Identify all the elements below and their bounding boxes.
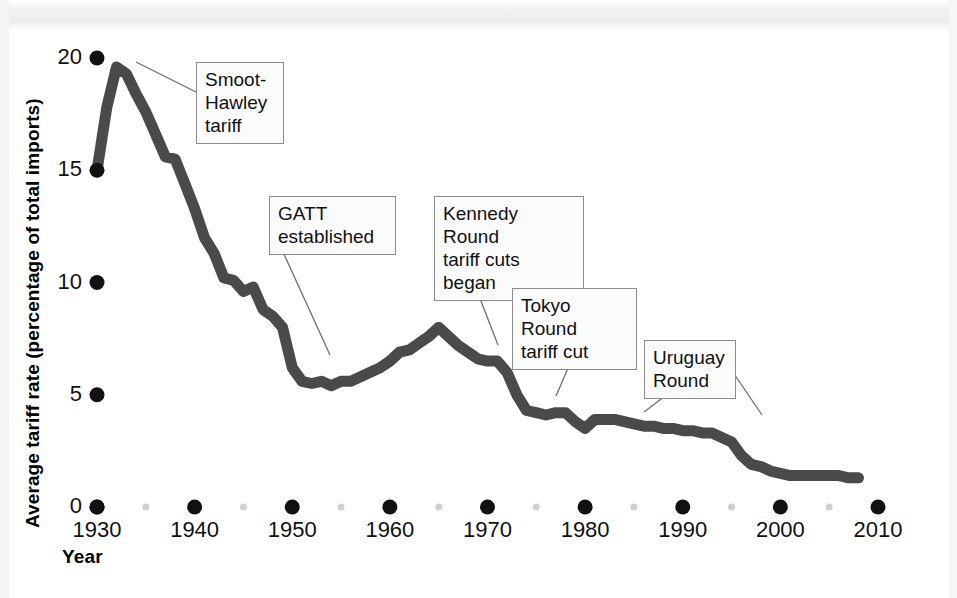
leader-line-smoot-hawley [136, 62, 196, 92]
x-tick-major-1960 [382, 500, 397, 515]
x-tick-minor-1985 [630, 504, 637, 511]
annotation-gatt: GATT established [269, 196, 396, 255]
x-tick-label-1950: 1950 [252, 518, 332, 542]
annotation-kennedy-round: Kennedy Round tariff cuts began [434, 196, 584, 301]
x-tick-major-1970 [480, 500, 495, 515]
y-tick-label-20: 20 [42, 46, 82, 68]
tariff-rate-figure: 05101520 1930194019501960197019801990200… [0, 0, 957, 598]
x-tick-label-1980: 1980 [545, 518, 625, 542]
x-tick-major-1980 [578, 500, 593, 515]
x-tick-major-2000 [773, 500, 788, 515]
x-tick-major-2010 [871, 500, 886, 515]
y-tick-major-10 [90, 275, 105, 290]
x-tick-label-1940: 1940 [155, 518, 235, 542]
annotation-tokyo-round: Tokyo Round tariff cut [512, 288, 637, 370]
annotation-smoot-hawley: Smoot- Hawley tariff [196, 62, 284, 144]
y-tick-label-10: 10 [42, 271, 82, 293]
x-tick-label-1930: 1930 [57, 518, 137, 542]
x-tick-minor-1975 [533, 504, 540, 511]
y-tick-major-5 [90, 387, 105, 402]
y-tick-label-0: 0 [42, 495, 82, 517]
x-tick-minor-1945 [240, 504, 247, 511]
x-tick-major-1990 [675, 500, 690, 515]
x-axis-title: Year [62, 546, 103, 568]
y-tick-label-5: 5 [42, 383, 82, 405]
x-tick-minor-2005 [826, 504, 833, 511]
x-tick-label-2000: 2000 [740, 518, 820, 542]
x-tick-minor-1965 [435, 504, 442, 511]
x-tick-minor-1955 [338, 504, 345, 511]
plot-area: 05101520 1930194019501960197019801990200… [0, 0, 957, 598]
x-tick-minor-1935 [142, 504, 149, 511]
annotation-uruguay-round: Uruguay Round [644, 340, 736, 399]
y-tick-major-20 [90, 51, 105, 66]
x-tick-label-1960: 1960 [350, 518, 430, 542]
y-tick-label-15: 15 [42, 158, 82, 180]
x-tick-minor-1995 [728, 504, 735, 511]
y-tick-major-0 [90, 500, 105, 515]
x-tick-major-1940 [187, 500, 202, 515]
x-tick-label-2010: 2010 [838, 518, 918, 542]
y-tick-major-15 [90, 163, 105, 178]
x-tick-label-1990: 1990 [643, 518, 723, 542]
x-tick-major-1950 [285, 500, 300, 515]
x-axis-major-ticks [90, 500, 886, 515]
x-tick-label-1970: 1970 [448, 518, 528, 542]
